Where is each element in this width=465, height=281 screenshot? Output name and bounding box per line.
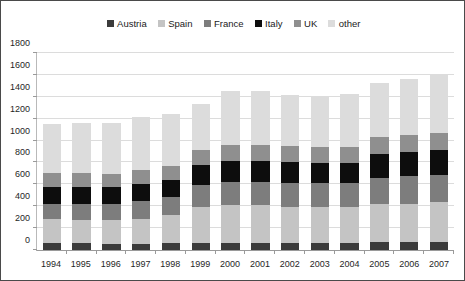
bar-group-1996[interactable] [97, 53, 127, 250]
bar-segment-austria[interactable] [430, 242, 448, 250]
bar-segment-spain[interactable] [132, 219, 150, 244]
bar-segment-other[interactable] [221, 91, 239, 145]
bar-segment-austria[interactable] [311, 243, 329, 250]
bar-segment-italy[interactable] [72, 187, 90, 204]
bar-segment-other[interactable] [311, 96, 329, 148]
stacked-bar[interactable] [370, 83, 388, 250]
bar-segment-spain[interactable] [43, 219, 61, 243]
bar-segment-austria[interactable] [102, 244, 120, 250]
bar-segment-spain[interactable] [221, 205, 239, 242]
bar-group-1994[interactable] [37, 53, 67, 250]
bar-segment-other[interactable] [370, 83, 388, 137]
bar-segment-spain[interactable] [162, 215, 180, 243]
bar-segment-spain[interactable] [370, 204, 388, 242]
legend-item-austria[interactable]: Austria [107, 19, 147, 29]
bar-segment-spain[interactable] [72, 220, 90, 244]
bar-segment-italy[interactable] [162, 180, 180, 198]
bar-segment-austria[interactable] [251, 243, 269, 250]
stacked-bar[interactable] [43, 124, 61, 250]
bar-segment-france[interactable] [43, 204, 61, 219]
bar-segment-italy[interactable] [192, 165, 210, 184]
bar-segment-other[interactable] [192, 104, 210, 150]
bar-segment-uk[interactable] [281, 146, 299, 162]
bar-segment-other[interactable] [281, 95, 299, 146]
bar-segment-spain[interactable] [400, 204, 418, 243]
bar-segment-other[interactable] [400, 79, 418, 135]
legend-item-uk[interactable]: UK [294, 19, 318, 29]
bar-segment-france[interactable] [192, 185, 210, 207]
bar-group-2002[interactable] [275, 53, 305, 250]
bar-segment-italy[interactable] [132, 184, 150, 201]
bar-segment-italy[interactable] [311, 163, 329, 184]
bar-group-1997[interactable] [126, 53, 156, 250]
bar-segment-italy[interactable] [221, 161, 239, 182]
bar-segment-uk[interactable] [340, 147, 358, 162]
stacked-bar[interactable] [251, 91, 269, 250]
bar-segment-france[interactable] [311, 183, 329, 207]
bar-group-2003[interactable] [305, 53, 335, 250]
bar-segment-spain[interactable] [340, 207, 358, 243]
bar-group-2006[interactable] [394, 53, 424, 250]
bar-segment-uk[interactable] [72, 173, 90, 187]
bar-segment-italy[interactable] [251, 161, 269, 182]
bar-segment-spain[interactable] [281, 207, 299, 244]
bar-segment-france[interactable] [400, 176, 418, 204]
stacked-bar[interactable] [430, 75, 448, 250]
bar-group-1995[interactable] [67, 53, 97, 250]
bar-segment-france[interactable] [430, 175, 448, 203]
bar-segment-uk[interactable] [311, 147, 329, 162]
bar-segment-italy[interactable] [43, 187, 61, 204]
bar-segment-spain[interactable] [192, 207, 210, 243]
bar-segment-france[interactable] [132, 201, 150, 219]
bar-segment-france[interactable] [281, 183, 299, 207]
bar-segment-italy[interactable] [430, 150, 448, 175]
stacked-bar[interactable] [311, 96, 329, 251]
bar-segment-france[interactable] [340, 183, 358, 207]
bar-segment-uk[interactable] [221, 145, 239, 161]
bar-segment-austria[interactable] [132, 244, 150, 250]
legend-item-spain[interactable]: Spain [158, 19, 193, 29]
bar-segment-austria[interactable] [221, 243, 239, 250]
bar-segment-austria[interactable] [340, 243, 358, 250]
bar-segment-uk[interactable] [102, 174, 120, 188]
bar-segment-france[interactable] [72, 204, 90, 220]
bar-segment-other[interactable] [43, 124, 61, 174]
bar-segment-other[interactable] [102, 123, 120, 174]
bar-segment-france[interactable] [251, 182, 269, 206]
bar-segment-italy[interactable] [400, 152, 418, 176]
stacked-bar[interactable] [102, 123, 120, 250]
bar-segment-uk[interactable] [251, 145, 269, 161]
bar-segment-france[interactable] [102, 204, 120, 221]
bar-group-2007[interactable] [424, 53, 454, 250]
bar-segment-uk[interactable] [43, 173, 61, 187]
stacked-bar[interactable] [72, 123, 90, 250]
bar-segment-other[interactable] [430, 75, 448, 133]
bar-segment-spain[interactable] [430, 202, 448, 242]
stacked-bar[interactable] [221, 91, 239, 250]
bar-segment-austria[interactable] [281, 243, 299, 250]
bar-segment-other[interactable] [251, 91, 269, 145]
bar-group-2004[interactable] [335, 53, 365, 250]
bar-segment-austria[interactable] [370, 242, 388, 250]
bar-segment-austria[interactable] [400, 242, 418, 250]
bar-segment-austria[interactable] [72, 243, 90, 250]
bar-segment-austria[interactable] [43, 243, 61, 250]
bar-segment-other[interactable] [72, 123, 90, 173]
bar-group-2005[interactable] [365, 53, 395, 250]
bar-group-2000[interactable] [216, 53, 246, 250]
bar-segment-austria[interactable] [162, 243, 180, 250]
bar-segment-uk[interactable] [370, 137, 388, 154]
bar-segment-italy[interactable] [340, 163, 358, 184]
bar-group-1999[interactable] [186, 53, 216, 250]
bar-segment-france[interactable] [370, 178, 388, 204]
bar-segment-italy[interactable] [281, 162, 299, 183]
stacked-bar[interactable] [400, 79, 418, 250]
bar-segment-uk[interactable] [162, 166, 180, 180]
bar-segment-spain[interactable] [311, 207, 329, 243]
bar-segment-italy[interactable] [102, 187, 120, 204]
bar-segment-uk[interactable] [430, 133, 448, 150]
bar-segment-france[interactable] [221, 182, 239, 206]
bar-segment-other[interactable] [132, 117, 150, 170]
bar-segment-uk[interactable] [400, 135, 418, 152]
stacked-bar[interactable] [162, 114, 180, 250]
